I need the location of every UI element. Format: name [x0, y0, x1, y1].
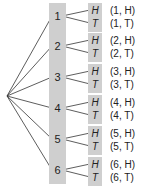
- coin-node-h: H: [88, 5, 102, 16]
- coin-node-t: T: [88, 48, 102, 59]
- coin-node-h: H: [88, 35, 102, 46]
- outcome-label: (1, H): [110, 5, 135, 16]
- die-node-4: 4: [49, 102, 66, 114]
- coin-node-h: H: [88, 159, 102, 170]
- outcome-label: (4, T): [110, 110, 134, 121]
- outcome-label: (3, H): [110, 66, 135, 77]
- coin-node-h: H: [88, 66, 102, 77]
- coin-node-h: H: [88, 97, 102, 108]
- coin-node-t: T: [88, 18, 102, 29]
- die-node-1: 1: [49, 10, 66, 22]
- outcome-label: (2, T): [110, 48, 134, 59]
- die-node-3: 3: [49, 71, 66, 83]
- outcome-label: (5, H): [110, 128, 135, 139]
- outcome-label: (4, H): [110, 97, 135, 108]
- coin-node-t: T: [88, 79, 102, 90]
- die-node-2: 2: [49, 40, 66, 52]
- outcome-label: (3, T): [110, 79, 134, 90]
- outcome-label: (2, H): [110, 35, 135, 46]
- outcome-label: (6, H): [110, 159, 135, 170]
- die-node-6: 6: [49, 164, 66, 176]
- die-node-5: 5: [49, 133, 66, 145]
- outcome-label: (6, T): [110, 172, 134, 183]
- coin-node-h: H: [88, 128, 102, 139]
- coin-node-t: T: [88, 141, 102, 152]
- outcome-label: (5, T): [110, 141, 134, 152]
- coin-node-t: T: [88, 172, 102, 183]
- outcome-label: (1, T): [110, 18, 134, 29]
- coin-node-t: T: [88, 110, 102, 121]
